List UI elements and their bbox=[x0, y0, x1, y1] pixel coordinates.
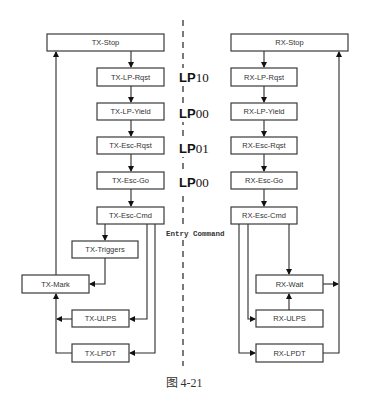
line-state-lp01: LP01 bbox=[179, 141, 209, 156]
svg-text:TX-Stop: TX-Stop bbox=[92, 38, 120, 47]
tx-state-triggers: TX-Triggers bbox=[72, 241, 138, 258]
svg-text:RX-LP-Yield: RX-LP-Yield bbox=[244, 107, 285, 116]
rx-state-esc-go: RX-Esc-Go bbox=[231, 172, 297, 189]
entry-command-label: Entry Command bbox=[166, 230, 225, 238]
tx-state-lp-rqst: TX-LP-Rqst bbox=[97, 68, 164, 86]
svg-text:TX-LPDT: TX-LPDT bbox=[85, 349, 117, 358]
line-state-lp00-b: LP00 bbox=[179, 175, 209, 190]
rx-state-wait: RX-Wait bbox=[256, 275, 323, 293]
svg-text:RX-Esc-Cmd: RX-Esc-Cmd bbox=[242, 211, 286, 220]
rx-state-lp-rqst: RX-LP-Rqst bbox=[231, 68, 297, 86]
escape-mode-state-diagram: TX-Stop TX-LP-Rqst TX-LP-Yield TX-Esc-Rq… bbox=[0, 0, 365, 407]
tx-state-ulps: TX-ULPS bbox=[72, 310, 129, 327]
tx-state-lpdt: TX-LPDT bbox=[72, 344, 129, 362]
rx-state-ulps: RX-ULPS bbox=[256, 310, 323, 327]
rx-state-stop: RX-Stop bbox=[231, 34, 348, 51]
svg-text:TX-LP-Yield: TX-LP-Yield bbox=[110, 107, 150, 116]
line-state-lp10: LP10 bbox=[179, 70, 209, 85]
svg-text:TX-Triggers: TX-Triggers bbox=[85, 245, 125, 254]
tx-state-stop: TX-Stop bbox=[47, 34, 164, 51]
svg-text:RX-LPDT: RX-LPDT bbox=[273, 349, 306, 358]
svg-text:RX-Stop: RX-Stop bbox=[275, 38, 303, 47]
tx-wires bbox=[56, 51, 155, 353]
svg-text:TX-LP-Rqst: TX-LP-Rqst bbox=[111, 73, 151, 82]
svg-text:TX-Mark: TX-Mark bbox=[41, 280, 70, 289]
svg-text:TX-Esc-Rqst: TX-Esc-Rqst bbox=[109, 141, 152, 150]
tx-state-esc-go: TX-Esc-Go bbox=[97, 172, 164, 189]
tx-state-mark: TX-Mark bbox=[22, 275, 89, 293]
svg-text:RX-Wait: RX-Wait bbox=[276, 280, 305, 289]
tx-state-esc-cmd: TX-Esc-Cmd bbox=[97, 207, 164, 224]
rx-state-lpdt: RX-LPDT bbox=[256, 344, 323, 362]
svg-text:TX-ULPS: TX-ULPS bbox=[85, 314, 117, 323]
svg-text:RX-Esc-Rqst: RX-Esc-Rqst bbox=[242, 141, 286, 150]
rx-wires bbox=[239, 51, 339, 353]
svg-text:TX-Esc-Cmd: TX-Esc-Cmd bbox=[109, 211, 152, 220]
rx-state-esc-rqst: RX-Esc-Rqst bbox=[231, 137, 297, 154]
svg-text:RX-ULPS: RX-ULPS bbox=[273, 314, 306, 323]
rx-state-esc-cmd: RX-Esc-Cmd bbox=[231, 207, 297, 224]
svg-text:TX-Esc-Go: TX-Esc-Go bbox=[112, 176, 149, 185]
svg-text:RX-Esc-Go: RX-Esc-Go bbox=[245, 176, 283, 185]
tx-state-esc-rqst: TX-Esc-Rqst bbox=[97, 137, 164, 154]
line-state-lp00-a: LP00 bbox=[179, 106, 209, 121]
tx-state-lp-yield: TX-LP-Yield bbox=[97, 103, 164, 120]
figure-caption: 图 4-21 bbox=[166, 376, 203, 390]
svg-text:RX-LP-Rqst: RX-LP-Rqst bbox=[244, 73, 285, 82]
rx-state-lp-yield: RX-LP-Yield bbox=[231, 103, 297, 120]
